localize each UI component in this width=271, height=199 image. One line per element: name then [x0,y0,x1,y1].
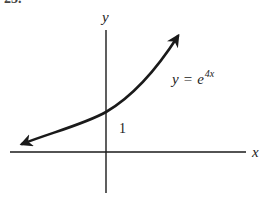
equation-equals: = [184,71,192,87]
equation-lhs: y [172,71,179,87]
exponential-curve [22,36,178,144]
equation-exponent: 4x [205,68,214,79]
y-intercept-label: 1 [119,122,126,136]
equation-label: y=e4x [172,68,214,88]
x-axis-label: x [252,145,259,160]
y-axis-label: y [102,10,109,25]
equation-base: e [197,71,204,87]
exponential-graph [0,0,271,199]
